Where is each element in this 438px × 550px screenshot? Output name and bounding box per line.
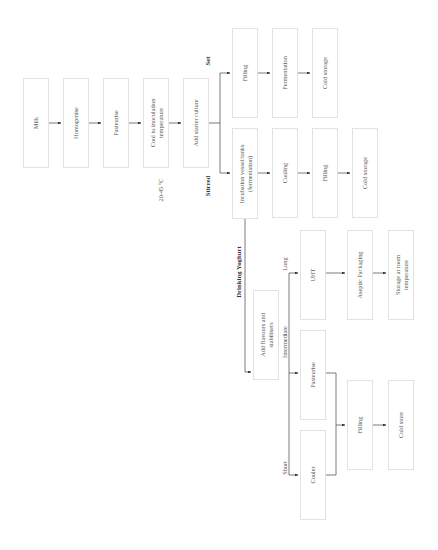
cooling-box: Cooling	[272, 128, 298, 218]
cool-label: Cool to inoculation temperature	[149, 99, 164, 148]
room-storage-label: Storage at room temperature	[394, 255, 409, 295]
incubation-label: Incubation vessel/tanks (fermentation)	[238, 144, 253, 203]
uht-label: UHT	[309, 269, 317, 282]
milk-box: Milk	[23, 78, 49, 168]
cold-store-box: Cold store	[388, 380, 414, 470]
temperature-note: 20-45 °C	[157, 179, 164, 202]
set-label: Set	[204, 56, 211, 65]
long-label: Long	[281, 257, 288, 270]
dy-pasteurise-box: Pasteurise	[300, 330, 326, 420]
dy-pasteurise-label: Pasteurise	[309, 362, 317, 388]
set-filling-box: Filling	[232, 28, 258, 118]
set-cold-storage-label: Cold storage	[321, 57, 329, 89]
dy-filling-label: Filling	[356, 417, 364, 434]
uht-box: UHT	[300, 230, 326, 320]
flavours-box: Add flavours and stabilisers	[253, 290, 279, 380]
milk-label: Milk	[32, 117, 40, 129]
cooler-box: Cooler	[300, 430, 326, 520]
yoghurt-flowchart: Milk Homogenise Pasteurise Cool to inocu…	[0, 0, 438, 550]
homogenise-box: Homogenise	[63, 78, 89, 168]
room-storage-box: Storage at room temperature	[388, 230, 414, 320]
intermediate-label: Intermediate	[281, 326, 288, 358]
starter-culture-label: Add starter culture	[192, 99, 200, 146]
stirred-cold-storage-label: Cold storage	[361, 157, 369, 189]
cooling-label: Cooling	[281, 163, 289, 183]
stirred-label: Stirred	[204, 176, 211, 197]
starter-culture-box: Add starter culture	[183, 78, 209, 168]
incubation-box: Incubation vessel/tanks (fermentation)	[232, 128, 258, 219]
set-fermentation-box: Fermentation	[272, 28, 298, 118]
set-cold-storage-box: Cold storage	[312, 28, 338, 118]
drinking-yoghurt-label: Drinking Yoghurt	[235, 246, 242, 298]
cold-store-label: Cold store	[397, 412, 405, 438]
stirred-cold-storage-box: Cold storage	[352, 128, 378, 218]
stirred-filling-label: Filling	[321, 165, 329, 182]
set-filling-label: Filling	[241, 65, 249, 82]
dy-filling-box: Filling	[347, 380, 373, 470]
short-label: Short	[281, 461, 288, 475]
pasteurise-label: Pasteurise	[112, 110, 120, 136]
flavours-label: Add flavours and stabilisers	[259, 313, 274, 357]
cooler-label: Cooler	[309, 466, 317, 483]
aseptic-packaging-box: Aseptic Packaging	[347, 230, 373, 320]
stirred-filling-box: Filling	[312, 128, 338, 218]
homogenise-label: Homogenise	[72, 107, 80, 139]
aseptic-packaging-label: Aseptic Packaging	[356, 251, 364, 298]
pasteurise-box: Pasteurise	[103, 78, 129, 168]
set-fermentation-label: Fermentation	[281, 56, 289, 90]
cool-box: Cool to inoculation temperature	[143, 78, 169, 168]
